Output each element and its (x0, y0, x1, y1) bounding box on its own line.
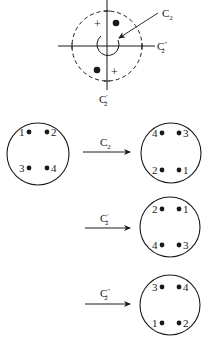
filled-dot-icon (177, 243, 182, 248)
filled-dot-icon (113, 20, 120, 27)
filled-dot-icon (94, 67, 101, 74)
filled-dot-icon (160, 321, 165, 326)
position-label: 2 (152, 203, 158, 215)
position-label: 4 (152, 239, 158, 251)
original-configuration: 1 2 3 4 (7, 123, 69, 185)
label-c2-prime: C′2 (99, 93, 108, 108)
operation-c2-prime: C′2 2 1 4 3 (85, 197, 200, 257)
position-label: 1 (152, 317, 158, 329)
position-label: 4 (152, 127, 158, 139)
position-label: 1 (183, 164, 189, 176)
configuration-circle (141, 123, 201, 183)
operation-label: C″2 (100, 287, 110, 302)
filled-dot-icon (160, 285, 165, 290)
filled-dot-icon (160, 131, 165, 136)
operation-c2-double-prime: C″2 3 4 1 2 (85, 275, 200, 335)
operation-label: C2 (100, 136, 111, 151)
configuration-circle (140, 275, 200, 335)
label-c2: C2 (162, 7, 173, 22)
position-label: 4 (51, 162, 57, 174)
filled-dot-icon (160, 168, 165, 173)
position-label: 1 (19, 126, 25, 138)
configuration-circle (7, 123, 69, 185)
filled-dot-icon (177, 131, 182, 136)
position-label: 2 (152, 164, 158, 176)
d2-symmetry-figure: + + C2 C″2 C′2 1 2 3 4 C2 4 3 2 1 C′2 (0, 0, 208, 348)
plus-marker-lower-right: + (111, 65, 118, 79)
position-label: 2 (51, 126, 57, 138)
filled-dot-icon (45, 166, 50, 171)
filled-dot-icon (45, 130, 50, 135)
position-label: 3 (19, 162, 25, 174)
position-label: 4 (183, 281, 189, 293)
configuration-circle (140, 197, 200, 257)
filled-dot-icon (27, 166, 32, 171)
operation-label: C′2 (100, 212, 109, 227)
position-label: 2 (183, 317, 189, 329)
symmetry-element-diagram: + + C2 C″2 C′2 (58, 0, 173, 108)
filled-dot-icon (177, 285, 182, 290)
filled-dot-icon (177, 168, 182, 173)
label-c2-double-prime: C″2 (157, 40, 167, 55)
position-label: 3 (152, 281, 158, 293)
c2-leader-line (119, 13, 158, 38)
filled-dot-icon (27, 130, 32, 135)
position-label: 1 (183, 203, 189, 215)
plus-marker-upper-left: + (94, 17, 101, 31)
filled-dot-icon (177, 321, 182, 326)
filled-dot-icon (160, 243, 165, 248)
position-label: 3 (183, 127, 189, 139)
position-label: 3 (183, 239, 189, 251)
filled-dot-icon (177, 207, 182, 212)
operation-c2: C2 4 3 2 1 (83, 123, 201, 183)
filled-dot-icon (160, 207, 165, 212)
